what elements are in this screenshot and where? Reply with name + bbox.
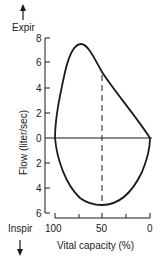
x-tick-100: 100 xyxy=(45,223,62,234)
inspir-arrow-icon xyxy=(17,240,23,256)
x-axis-label: Vital capacity (%) xyxy=(57,240,134,251)
y-tick-6: 6 xyxy=(36,57,42,68)
inspir-label: Inspir xyxy=(8,223,33,234)
x-tick-50: 50 xyxy=(96,223,108,234)
expir-label: Expir xyxy=(12,22,35,33)
y-tick-neg2: 2 xyxy=(36,158,42,169)
y-tick-neg4: 4 xyxy=(36,183,42,194)
y-tick-4: 4 xyxy=(36,83,42,94)
y-tick-0: 0 xyxy=(36,133,42,144)
expir-arrow-icon xyxy=(20,4,26,20)
y-axis-label: Flow (liter/sec) xyxy=(18,110,29,175)
x-ticks xyxy=(55,213,150,218)
y-tick-neg6: 6 xyxy=(36,208,42,219)
y-tick-8: 8 xyxy=(36,33,42,44)
x-tick-0: 0 xyxy=(147,223,153,234)
y-tick-2: 2 xyxy=(36,108,42,119)
y-ticks xyxy=(45,38,50,213)
flow-volume-loop-chart: Expir 8 6 4 2 0 2 4 6 Flow (liter/sec) 1… xyxy=(0,0,160,261)
